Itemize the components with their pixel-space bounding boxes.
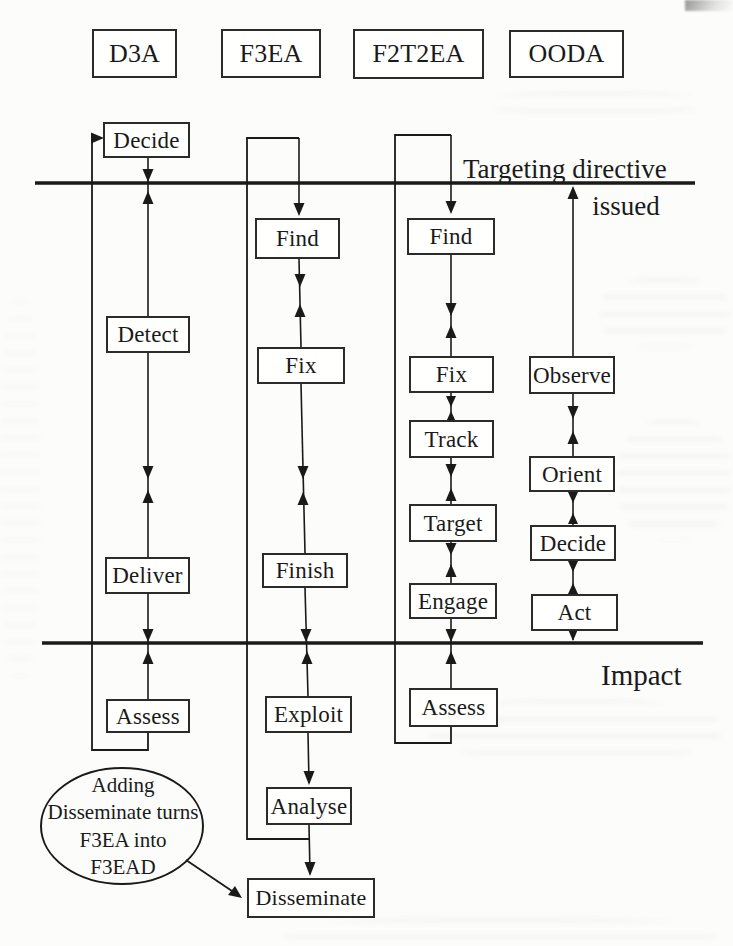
step-label: Detect [117,323,178,346]
d3a-step-deliver: Deliver [105,557,190,594]
step-label: Finish [276,559,335,582]
f2t2ea-step-find: Find [407,218,495,255]
f3ea-step-fix: Fix [257,347,345,384]
step-label: Engage [418,590,488,613]
annotation-line: F3EAD [90,854,155,881]
ooda-step-observe: Observe [529,356,615,394]
header-label: D3A [109,41,160,67]
header-box-f2t2ea: F2T2EA [353,29,484,79]
d3a-step-decide: Decide [103,122,190,158]
step-label: Fix [285,354,316,377]
header-box-ooda: OODA [509,30,624,78]
header-box-d3a: D3A [92,29,177,78]
f2t2ea-step-fix: Fix [409,356,494,393]
ooda-step-orient: Orient [529,456,615,492]
targeting-directive-label-line2: issued [585,191,667,222]
step-label: Observe [533,364,611,387]
step-label: Assess [116,705,180,728]
step-label: Assess [422,696,486,719]
step-label: Decide [540,532,606,555]
step-label: Track [425,428,479,451]
annotation-line: Disseminate turns [47,799,198,826]
bleedthrough-smudge [0,300,40,680]
step-label: Find [430,225,473,248]
arrowhead-into-disseminate [228,886,242,898]
f3ea-step-finish: Finish [262,553,348,588]
f3ea-step-exploit: Exploit [265,696,352,733]
header-label: F3EA [240,41,303,67]
ooda-step-decide: Decide [530,525,616,561]
targeting-directive-label: Targeting directive [463,154,667,185]
header-box-f3ea: F3EA [221,29,321,78]
scan-artifact [685,0,733,11]
step-label: Exploit [274,703,343,726]
impact-label: Impact [601,659,682,692]
annotation-ellipse: Adding Disseminate turns F3EA into F3EAD [42,770,204,883]
f2t2ea-step-track: Track [409,420,494,458]
step-label: Orient [542,463,602,486]
header-label: F2T2EA [372,41,464,67]
f2t2ea-step-engage: Engage [409,583,497,619]
d3a-step-detect: Detect [106,316,190,353]
f3ea-step-disseminate: Disseminate [247,878,375,918]
step-label: Act [558,601,592,624]
f3ea-step-find: Find [255,218,340,259]
step-label: Disseminate [256,887,367,909]
bleedthrough-smudge [600,278,730,348]
step-label: Fix [436,363,467,386]
step-label: Analyse [271,795,348,818]
f2t2ea-step-target: Target [409,504,497,542]
f3ea-step-analyse: Analyse [266,787,352,825]
bleedthrough-smudge [618,420,730,540]
annotation-line: F3EA into [80,827,167,854]
f2t2ea-step-assess: Assess [409,688,498,727]
header-label: OODA [529,41,605,67]
d3a-step-assess: Assess [106,699,190,733]
step-label: Deliver [112,564,182,587]
step-label: Find [276,227,319,250]
bleedthrough-smudge [480,92,710,114]
ooda-step-act: Act [531,594,618,631]
annotation-line: Adding [92,772,155,799]
targeting-cycles-diagram: D3A F3EA F2T2EA OODA Targeting directive… [0,0,733,946]
step-label: Decide [113,129,179,152]
step-label: Target [423,512,482,535]
d3a-loop-line [92,138,148,750]
bleedthrough-smudge [280,918,720,946]
